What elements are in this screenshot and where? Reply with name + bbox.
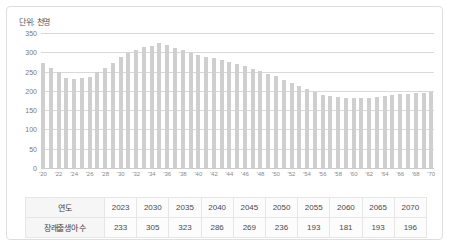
x-tick-label: '60 [352, 169, 356, 183]
table-row-header: 연도 [26, 198, 105, 218]
x-tick-label [49, 169, 53, 183]
y-tick-label: 150 [25, 107, 37, 114]
bar [290, 83, 294, 168]
bar [336, 97, 340, 168]
x-tick-label: '68 [414, 169, 418, 183]
x-tick-label [328, 169, 332, 183]
bar [57, 72, 61, 168]
bar [429, 92, 433, 168]
x-tick-label: '28 [103, 169, 107, 183]
x-tick-label: '46 [243, 169, 247, 183]
y-tick-label: 300 [25, 49, 37, 56]
unit-label: 단위: 천명 [19, 16, 50, 27]
summary-table: 연도20232030203520402045205020552060206520… [25, 197, 427, 238]
bar [196, 55, 200, 168]
x-tick-label [157, 169, 161, 183]
table-cell: 2055 [298, 198, 330, 218]
x-tick-label [422, 169, 426, 183]
x-tick-label [266, 169, 270, 183]
bar [414, 93, 418, 168]
table-cell: 2065 [362, 198, 394, 218]
bar [173, 48, 177, 168]
x-tick-label [173, 169, 177, 183]
x-tick-label: '40 [196, 169, 200, 183]
bar [181, 50, 185, 168]
bar [134, 50, 138, 168]
bar [390, 95, 394, 168]
table-cell: 2045 [233, 198, 265, 218]
x-axis-labels: '20'22'24'26'28'30'32'34'36'38'40'42'44'… [41, 169, 434, 183]
x-tick-label: '58 [336, 169, 340, 183]
x-tick-label [204, 169, 208, 183]
bar [80, 78, 84, 168]
bar [189, 53, 193, 168]
x-tick-label [251, 169, 255, 183]
table-cell: 181 [330, 218, 362, 238]
bar [305, 89, 309, 168]
x-tick-label: '32 [134, 169, 138, 183]
bar [220, 60, 224, 168]
bar [359, 98, 363, 168]
bar [367, 98, 371, 168]
x-tick-label [142, 169, 146, 183]
x-tick-label: '20 [41, 169, 45, 183]
x-tick-label: '70 [429, 169, 433, 183]
bar [297, 86, 301, 168]
x-tick-label: '54 [305, 169, 309, 183]
table-cell: 233 [105, 218, 137, 238]
x-tick-label [95, 169, 99, 183]
x-tick-label: '62 [367, 169, 371, 183]
x-tick-label: '52 [290, 169, 294, 183]
bar [72, 79, 76, 168]
x-tick-label: '64 [383, 169, 387, 183]
table-cell: 2040 [201, 198, 233, 218]
bar [88, 77, 92, 168]
table-row: 장래출생아 수233305323286269236193181193196 [26, 218, 427, 238]
table-cell: 236 [265, 218, 297, 238]
x-tick-label: '66 [398, 169, 402, 183]
chart-card: 단위: 천명 350300250200150100500 '20'22'24'2… [6, 6, 443, 240]
x-tick-label [126, 169, 130, 183]
x-tick-label: '24 [72, 169, 76, 183]
x-tick-label [235, 169, 239, 183]
bar [282, 80, 286, 168]
x-tick-label: '48 [258, 169, 262, 183]
bar [266, 74, 270, 169]
x-tick-label: '56 [321, 169, 325, 183]
bar-series [41, 33, 434, 168]
table-cell: 193 [362, 218, 394, 238]
bar-chart-plot: 350300250200150100500 '20'22'24'26'28'30… [17, 33, 434, 185]
x-tick-label [220, 169, 224, 183]
bar [352, 98, 356, 168]
bar [235, 64, 239, 168]
table-cell: 305 [137, 218, 169, 238]
table-cell: 2050 [265, 198, 297, 218]
x-tick-label: '30 [119, 169, 123, 183]
x-tick-label: '22 [57, 169, 61, 183]
bar [406, 94, 410, 168]
x-tick-label: '44 [227, 169, 231, 183]
x-tick-label [111, 169, 115, 183]
y-tick-label: 350 [25, 30, 37, 37]
bar [64, 78, 68, 168]
bar [375, 97, 379, 168]
x-tick-label [390, 169, 394, 183]
x-tick-label: '42 [212, 169, 216, 183]
bar [41, 63, 45, 168]
bar [150, 46, 154, 168]
y-tick-label: 0 [33, 165, 37, 172]
bar [243, 66, 247, 168]
table-cell: 269 [233, 218, 265, 238]
bar [258, 71, 262, 168]
bar [398, 94, 402, 168]
table-cell: 2030 [137, 198, 169, 218]
table-cell: 2035 [169, 198, 201, 218]
x-tick-label [313, 169, 317, 183]
bar [313, 92, 317, 168]
x-tick-label [344, 169, 348, 183]
table-cell: 196 [394, 218, 426, 238]
bar [274, 76, 278, 168]
table-cell: 2070 [394, 198, 426, 218]
x-tick-label [406, 169, 410, 183]
y-tick-label: 100 [25, 126, 37, 133]
